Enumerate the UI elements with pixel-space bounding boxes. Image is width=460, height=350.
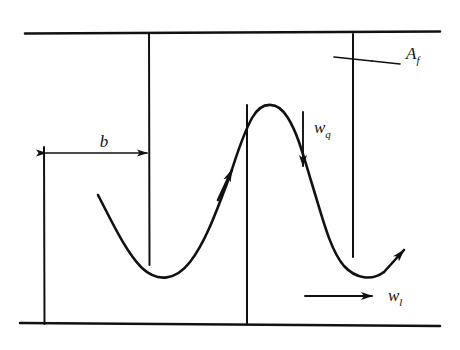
label-velocity-q-subscript: q (325, 128, 331, 140)
wave-profile-diagram: b Af wq wl (0, 0, 460, 350)
label-velocity-l-subscript: l (399, 296, 402, 308)
top-boundary-line (25, 32, 440, 34)
dimension-label-b: b (100, 132, 109, 151)
profile-curve-crest (226, 105, 384, 278)
label-velocity-l-symbol: w (388, 286, 400, 305)
mid-wall-line (149, 34, 150, 265)
label-area-f-symbol: A (405, 44, 417, 63)
label-velocity-q-symbol: w (314, 118, 326, 137)
bottom-boundary-line (20, 323, 440, 326)
af-leader-line (372, 61, 400, 64)
figure-canvas: b Af wq wl (0, 0, 460, 350)
label-velocity-l: wl (388, 286, 402, 308)
left-wall-line (44, 147, 45, 324)
label-area-f: Af (405, 44, 421, 66)
label-area-f-subscript: f (416, 54, 421, 66)
profile-curve-exit-arrow (384, 250, 404, 272)
label-velocity-q: wq (314, 118, 331, 140)
profile-curve-rising-lower (98, 186, 226, 278)
